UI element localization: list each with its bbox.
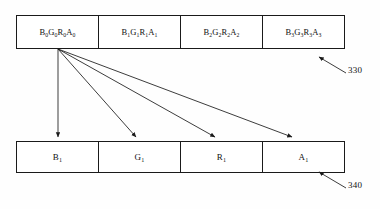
reference-numeral-330: 330 [348, 65, 362, 75]
leader-line-340 [319, 172, 346, 188]
bottom-cell-3-label: A1 [299, 152, 309, 162]
bottom-cell-0-label: B1 [53, 152, 62, 162]
bottom-cell-0: B1 [17, 142, 99, 172]
top-cell-0-label: B0G0R0A0 [40, 27, 76, 37]
top-cell-2: B2G2R2A2 [181, 16, 263, 48]
top-cell-0: B0G0R0A0 [17, 16, 99, 48]
bottom-cell-3: A1 [263, 142, 344, 172]
top-cell-1-label: B1G1R1A1 [122, 27, 158, 37]
bottom-cell-2-label: R1 [217, 152, 226, 162]
top-cell-3-label: B3G3R3A3 [286, 27, 322, 37]
arrow-to-g1 [58, 49, 136, 137]
top-cell-2-label: B2G2R2A2 [204, 27, 240, 37]
arrow-to-a1 [58, 49, 292, 137]
bottom-cell-2: R1 [181, 142, 263, 172]
mapping-arrows [58, 49, 292, 137]
top-cell-3: B3G3R3A3 [263, 16, 344, 48]
bottom-component-table: B1 G1 R1 A1 [16, 141, 345, 173]
top-cell-1: B1G1R1A1 [99, 16, 181, 48]
arrow-to-r1 [58, 49, 215, 137]
reference-numeral-340: 340 [348, 180, 362, 190]
bottom-cell-1-label: G1 [135, 152, 145, 162]
patent-figure: B0G0R0A0 B1G1R1A1 B2G2R2A2 B3G3R3A3 B1 G… [0, 0, 380, 209]
top-pixel-table: B0G0R0A0 B1G1R1A1 B2G2R2A2 B3G3R3A3 [16, 15, 345, 49]
bottom-cell-1: G1 [99, 142, 181, 172]
leader-line-330 [319, 57, 346, 73]
